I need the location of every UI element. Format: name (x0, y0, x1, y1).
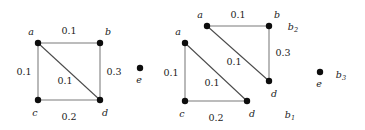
group-labels: b1 b2 b3 (285, 21, 346, 122)
vertex-label-a-lower: a (175, 26, 181, 37)
vertex-dot-b-upper (266, 23, 272, 29)
vertex-label-c-lower: c (179, 108, 185, 119)
graph-canvas: a b c d e a b d a c d e 0.1 0.1 0.1 0.3 … (0, 0, 365, 130)
vertex-label-a: a (28, 26, 34, 37)
vertex-label-c: c (32, 107, 38, 118)
edge-weight-b-d: 0.3 (106, 66, 121, 77)
vertex-label-b: b (105, 26, 111, 37)
group-label-b2: b2 (288, 21, 298, 34)
vertex-dot-d-lower (244, 98, 250, 104)
vertex-dot-a-upper (204, 23, 210, 29)
vertex-dot-a (35, 40, 41, 46)
edge-a-d (185, 43, 247, 101)
edge-weight-a-d: 0.1 (57, 75, 72, 86)
edge-weight-c-d: 0.2 (61, 111, 76, 122)
edge-weight-a-b-upper: 0.1 (230, 9, 245, 20)
graph-2-lower-edges (185, 43, 247, 101)
edge-weight-a-b: 0.1 (61, 25, 76, 36)
group-label-b3-sub: 3 (342, 73, 346, 81)
vertex-dot-b (97, 40, 103, 46)
group-label-b1-sub: 1 (291, 113, 295, 121)
vertex-dot-d-upper (266, 78, 272, 84)
edge-weight-a-d-upper: 0.1 (226, 56, 241, 67)
graph-1-edges (38, 43, 100, 100)
vertex-label-d-upper: d (271, 88, 277, 99)
graph-figure: a b c d e a b d a c d e 0.1 0.1 0.1 0.3 … (0, 0, 365, 130)
edge-weight-a-c: 0.1 (16, 66, 31, 77)
vertex-label-e: e (136, 74, 142, 85)
edge-weight-b-d-upper: 0.3 (275, 47, 290, 58)
edge-weight-a-c-lower: 0.1 (163, 67, 178, 78)
group-label-b2-sub: 2 (293, 25, 298, 33)
vertex-dot-e-right (317, 69, 323, 75)
group-label-b3: b3 (336, 69, 346, 82)
vertex-dot-a-lower (182, 40, 188, 46)
vertex-label-a-upper: a (197, 9, 203, 20)
vertex-label-e-right: e (316, 78, 322, 89)
edge-weight-a-d-lower: 0.1 (204, 77, 219, 88)
edge-a-d (38, 43, 100, 100)
vertex-dot-d (97, 97, 103, 103)
vertex-label-b-upper: b (274, 9, 280, 20)
edge-weight-c-d-lower: 0.2 (208, 112, 223, 123)
vertex-label-d: d (102, 107, 108, 118)
vertex-label-d-lower: d (249, 108, 255, 119)
vertex-dot-c-lower (182, 98, 188, 104)
group-label-b1: b1 (285, 109, 295, 122)
vertex-dot-c (35, 97, 41, 103)
vertex-dot-e (137, 65, 143, 71)
